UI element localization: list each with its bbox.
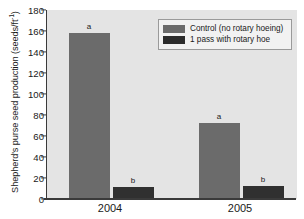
y-tick-label-140: 140	[0, 47, 44, 58]
legend-item-treatment: 1 pass with rotary hoe	[163, 35, 287, 45]
y-tick-label-40: 40	[0, 152, 44, 163]
y-tick-mark-60	[41, 135, 46, 136]
legend-item-control: Control (no rotary hoeing)	[163, 24, 287, 34]
significance-label-2004-treatment: b	[131, 176, 135, 185]
y-tick-mark-80	[41, 114, 46, 115]
y-tick-mark-20	[41, 177, 46, 178]
x-axis-label-2004: 2004	[98, 202, 122, 214]
y-tick-label-180: 180	[0, 5, 44, 16]
significance-label-2005-control: a	[217, 112, 221, 121]
bar-2005-control	[199, 123, 240, 199]
y-tick-label-20: 20	[0, 173, 44, 184]
bar-2004-treatment	[113, 187, 154, 199]
significance-label-2004-control: a	[87, 22, 91, 31]
x-axis-line	[44, 198, 296, 199]
bar-2005-treatment	[243, 186, 284, 199]
y-tick-mark-0	[41, 198, 46, 199]
y-tick-mark-140	[41, 51, 46, 52]
legend-label-control: Control (no rotary hoeing)	[190, 24, 283, 34]
y-tick-label-100: 100	[0, 89, 44, 100]
y-tick-label-160: 160	[0, 26, 44, 37]
bar-chart-figure: Shepherd's purse seed production (seeds/…	[0, 0, 304, 219]
legend-label-treatment: 1 pass with rotary hoe	[190, 35, 270, 45]
legend-swatch-control	[163, 25, 185, 33]
y-tick-label-120: 120	[0, 68, 44, 79]
y-tick-label-0: 0	[0, 194, 44, 205]
y-tick-label-60: 60	[0, 131, 44, 142]
x-axis-label-2005: 2005	[228, 202, 252, 214]
y-tick-label-80: 80	[0, 110, 44, 121]
y-tick-mark-40	[41, 156, 46, 157]
significance-label-2005-treatment: b	[261, 175, 265, 184]
legend-swatch-treatment	[163, 36, 185, 44]
bar-2004-control	[69, 33, 110, 199]
y-tick-mark-120	[41, 72, 46, 73]
y-tick-mark-180	[41, 9, 46, 10]
y-tick-mark-160	[41, 30, 46, 31]
legend: Control (no rotary hoeing) 1 pass with r…	[158, 19, 292, 50]
y-tick-mark-100	[41, 93, 46, 94]
